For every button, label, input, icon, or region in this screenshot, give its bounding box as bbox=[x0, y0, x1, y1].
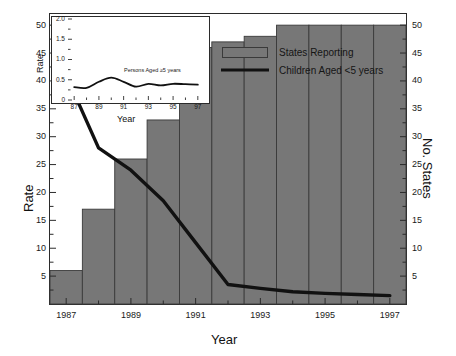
legend-swatch-states-reporting bbox=[222, 47, 268, 58]
left-tick-label-50: 50 bbox=[30, 21, 46, 30]
inset-annotation-label: Persons Aged ≥5 years bbox=[124, 68, 181, 74]
right-tick-label-35: 35 bbox=[412, 104, 422, 113]
inset-y-tick-label-1.5: 1.5 bbox=[48, 36, 65, 43]
inset-y-tick-label-0: 0 bbox=[48, 97, 65, 104]
inset-x-tick-label-95: 95 bbox=[165, 104, 181, 111]
right-tick-label-15: 15 bbox=[412, 216, 422, 225]
x-tick-label-1987: 1987 bbox=[53, 311, 79, 320]
legend-label-children-under-5: Children Aged <5 years bbox=[279, 66, 383, 76]
left-tick-label-35: 35 bbox=[30, 104, 46, 113]
left-tick-label-5: 5 bbox=[30, 272, 46, 281]
inset-x-tick-label-91: 91 bbox=[116, 104, 132, 111]
inset-plot-frame bbox=[51, 16, 210, 104]
left-tick-label-40: 40 bbox=[30, 76, 46, 85]
inset-x-axis-title: Year bbox=[117, 115, 135, 124]
chart-figure: 5101520253035404550 5101520253035404550 … bbox=[0, 0, 456, 356]
right-tick-label-10: 10 bbox=[412, 244, 422, 253]
right-tick-label-45: 45 bbox=[412, 49, 422, 58]
right-axis-title: No. States bbox=[421, 138, 434, 199]
inset-x-tick-label-93: 93 bbox=[140, 104, 156, 111]
left-tick-label-30: 30 bbox=[30, 132, 46, 141]
right-tick-label-40: 40 bbox=[412, 76, 422, 85]
inset-y-tick-label-1: 1.0 bbox=[48, 56, 65, 63]
x-tick-label-1997: 1997 bbox=[377, 311, 403, 320]
right-tick-label-5: 5 bbox=[412, 272, 417, 281]
x-tick-label-1995: 1995 bbox=[312, 311, 338, 320]
inset-y-tick-label-2: 2.0 bbox=[48, 16, 65, 23]
left-tick-label-10: 10 bbox=[30, 244, 46, 253]
inset-x-tick-label-97: 97 bbox=[190, 104, 206, 111]
x-tick-label-1993: 1993 bbox=[247, 311, 273, 320]
left-tick-label-25: 25 bbox=[30, 160, 46, 169]
left-axis-title: Rate bbox=[22, 185, 35, 212]
x-tick-label-1991: 1991 bbox=[183, 311, 209, 320]
legend-label-states-reporting: States Reporting bbox=[279, 48, 354, 58]
inset-x-tick-label-89: 89 bbox=[91, 104, 107, 111]
left-tick-label-15: 15 bbox=[30, 216, 46, 225]
x-axis-title: Year bbox=[211, 333, 237, 346]
inset-y-tick-label-0.5: 0.5 bbox=[48, 77, 65, 84]
right-tick-label-50: 50 bbox=[412, 21, 422, 30]
inset-x-tick-label-87: 87 bbox=[66, 104, 82, 111]
inset-left-axis-title: Rate bbox=[36, 54, 45, 73]
x-tick-label-1989: 1989 bbox=[118, 311, 144, 320]
